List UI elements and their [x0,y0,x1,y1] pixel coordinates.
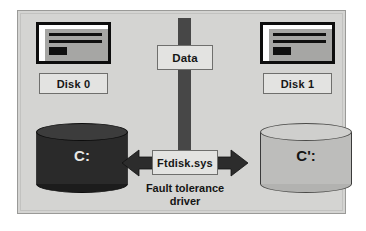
window-icon-line [49,33,102,36]
diagram-panel: Data Disk 0 Disk 1 C: [17,10,346,214]
window-icon-body [45,29,108,61]
window-icon-line [273,40,326,43]
data-label-box: Data [157,45,213,70]
cylinder-top-ellipse [36,123,128,141]
window-icon-frame [39,25,108,61]
fault-tolerance-caption-line1: Fault tolerance [122,182,248,195]
fault-tolerance-caption-line2: driver [122,195,248,208]
disk1-label-text: Disk 1 [281,78,315,90]
ftdisk-driver-box: Ftdisk.sys [152,150,218,175]
volume-cylinder-c-prime: C': [260,123,352,193]
disk1-label-box: Disk 1 [263,73,332,94]
window-icon [260,22,335,64]
window-icon-block [49,47,67,55]
volume-c-label: C: [36,147,128,164]
window-icon-body [269,29,332,61]
disk0-label-text: Disk 0 [57,78,91,90]
ftdisk-driver-label: Ftdisk.sys [157,157,213,169]
window-icon-frame [263,25,332,61]
window-icon-line [273,33,326,36]
cylinder-top-ellipse [260,123,352,141]
data-label-text: Data [172,52,198,64]
volume-cylinder-c: C: [36,123,128,193]
data-stream-bar [178,18,191,156]
window-icon [36,22,111,64]
window-icon-line [49,40,102,43]
fault-tolerance-driver-caption: Fault tolerance driver [122,182,248,208]
volume-c-prime-label: C': [260,147,352,164]
disk0-label-box: Disk 0 [39,73,108,94]
window-icon-block [273,47,291,55]
